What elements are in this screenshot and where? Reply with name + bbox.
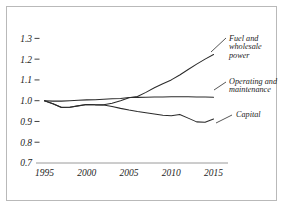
y-tick-label: 1.3	[20, 34, 32, 44]
y-tick-label: 0.7	[20, 158, 33, 168]
x-tick-label: 2005	[120, 168, 139, 178]
leader-line	[211, 38, 226, 52]
leader-line	[214, 82, 226, 90]
y-tick-label: 1.0	[20, 96, 32, 106]
series-label: Capital	[236, 110, 261, 119]
leader-line	[216, 115, 232, 123]
series-line	[44, 55, 213, 108]
x-tick-label: 2000	[77, 168, 96, 178]
series-labels: Fuel andwholesalepowerOperating andmaint…	[228, 34, 278, 119]
y-tick-label: 0.8	[20, 138, 32, 148]
x-tick-label: 1995	[35, 168, 54, 178]
x-axis-labels: 19952000200520102015	[35, 168, 223, 178]
y-tick-label: 0.9	[20, 117, 32, 127]
x-tick-label: 2015	[204, 168, 223, 178]
series-line	[44, 97, 213, 101]
series-label: power	[228, 51, 250, 60]
y-tick-label: 1.1	[20, 75, 32, 85]
series-line	[44, 101, 213, 123]
chart-figure: 0.70.80.91.01.11.21.3 199520002005201020…	[0, 0, 284, 210]
series-label: maintenance	[229, 85, 271, 94]
x-tick-label: 2010	[162, 168, 181, 178]
y-tick-label: 1.2	[20, 55, 32, 65]
line-chart-plot: 0.70.80.91.01.11.21.3 199520002005201020…	[0, 0, 284, 210]
y-axis-labels: 0.70.80.91.01.11.21.3	[20, 34, 33, 169]
data-series-lines	[44, 55, 213, 123]
y-axis-ticks	[35, 38, 40, 142]
